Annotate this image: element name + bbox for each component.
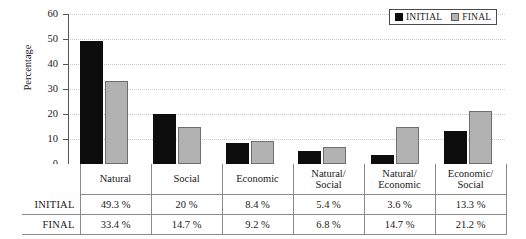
table-cell-final-natural-social: 6.8 % bbox=[293, 215, 364, 235]
table-row-initial: INITIAL 49.3 % 20 % 8.4 % 5.4 % 3.6 % 13… bbox=[22, 195, 506, 215]
y-tick-60 bbox=[63, 14, 68, 15]
category-header-natural-economic: Natural/ Economic bbox=[364, 164, 435, 195]
table-corner-cell bbox=[22, 164, 80, 195]
table-cell-final-economic: 9.2 % bbox=[222, 215, 293, 235]
legend-label-final: FINAL bbox=[462, 12, 491, 22]
table-row-label-initial: INITIAL bbox=[22, 195, 80, 215]
y-tick-label-60: 60 bbox=[14, 9, 58, 19]
table-cell-final-natural: 33.4 % bbox=[80, 215, 151, 235]
bar-group-natural bbox=[68, 14, 141, 164]
table-cell-initial-economic: 8.4 % bbox=[222, 195, 293, 215]
bar-final-natural-economic bbox=[396, 127, 419, 164]
bar-initial-economic-social bbox=[444, 131, 467, 164]
table-cell-initial-economic-social: 13.3 % bbox=[435, 195, 506, 215]
legend-swatch-initial-icon bbox=[395, 13, 403, 21]
bar-final-natural-social bbox=[323, 147, 346, 164]
table-cell-final-social: 14.7 % bbox=[151, 215, 222, 235]
legend-label-initial: INITIAL bbox=[406, 12, 442, 22]
y-tick-20 bbox=[63, 114, 68, 115]
y-tick-50 bbox=[63, 39, 68, 40]
table-cell-initial-natural-social: 5.4 % bbox=[293, 195, 364, 215]
table-cell-final-economic-social: 21.2 % bbox=[435, 215, 506, 235]
y-tick-10 bbox=[63, 139, 68, 140]
table-cell-initial-social: 20 % bbox=[151, 195, 222, 215]
y-tick-label-20: 20 bbox=[14, 109, 58, 119]
bar-initial-social bbox=[153, 114, 176, 164]
table-row-final: FINAL 33.4 % 14.7 % 9.2 % 6.8 % 14.7 % 2… bbox=[22, 215, 506, 235]
bar-final-social bbox=[178, 127, 201, 164]
bar-initial-economic bbox=[226, 143, 249, 164]
y-tick-40 bbox=[63, 64, 68, 65]
bar-final-economic-social bbox=[469, 111, 492, 164]
legend-swatch-final-icon bbox=[451, 13, 459, 21]
bar-initial-natural-social bbox=[298, 151, 321, 165]
category-header-natural-social: Natural/ Social bbox=[293, 164, 364, 195]
data-table: Natural Social Economic Natural/ Social … bbox=[22, 164, 507, 235]
bar-initial-natural bbox=[80, 41, 103, 164]
y-tick-30 bbox=[63, 89, 68, 90]
bar-initial-natural-economic bbox=[371, 155, 394, 164]
y-axis-line bbox=[68, 14, 69, 164]
category-header-natural: Natural bbox=[80, 164, 151, 195]
category-header-social: Social bbox=[151, 164, 222, 195]
category-header-economic: Economic bbox=[222, 164, 293, 195]
y-tick-label-10: 10 bbox=[14, 134, 58, 144]
bar-chart-figure: 60 50 40 30 20 10 0 Percentage INITIAL F… bbox=[0, 0, 526, 239]
bar-group-social bbox=[141, 14, 214, 164]
bar-group-economic bbox=[214, 14, 287, 164]
table-cell-initial-natural: 49.3 % bbox=[80, 195, 151, 215]
table-row-label-final: FINAL bbox=[22, 215, 80, 235]
table-cell-initial-natural-economic: 3.6 % bbox=[364, 195, 435, 215]
bar-final-economic bbox=[251, 141, 274, 164]
y-axis-title: Percentage bbox=[22, 28, 33, 108]
table-cell-final-natural-economic: 14.7 % bbox=[364, 215, 435, 235]
bar-group-natural-economic bbox=[359, 14, 432, 164]
bar-group-economic-social bbox=[432, 14, 505, 164]
table-header-row: Natural Social Economic Natural/ Social … bbox=[22, 164, 506, 195]
category-header-economic-social: Economic/ Social bbox=[435, 164, 506, 195]
chart-legend: INITIAL FINAL bbox=[389, 9, 497, 25]
bar-final-natural bbox=[105, 81, 128, 165]
bar-group-natural-social bbox=[286, 14, 359, 164]
plot-area bbox=[68, 14, 505, 164]
legend-entry-final: FINAL bbox=[451, 12, 491, 22]
legend-entry-initial: INITIAL bbox=[395, 12, 442, 22]
